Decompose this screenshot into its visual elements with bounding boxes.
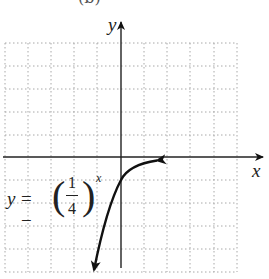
- exponential-curve: [94, 161, 157, 271]
- equation-equals-minus: = −: [21, 188, 32, 232]
- equation-lhs: y: [7, 188, 15, 210]
- graph-canvas: [0, 0, 269, 279]
- y-axis-label: y: [108, 14, 116, 36]
- equation-denominator: 4: [68, 200, 76, 218]
- x-axis-label: x: [252, 160, 260, 182]
- equation-right-paren: ): [82, 172, 95, 219]
- equation-left-paren: (: [52, 172, 65, 219]
- equation-exponent: x: [96, 171, 101, 186]
- figure-caption: (b): [78, 0, 101, 7]
- equation-numerator: 1: [68, 174, 76, 192]
- fraction-bar: [66, 195, 78, 196]
